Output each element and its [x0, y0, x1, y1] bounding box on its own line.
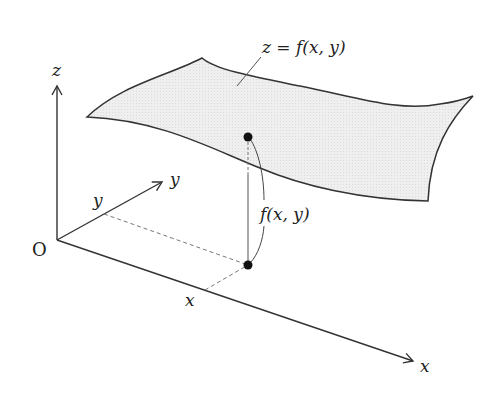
base-point: [244, 261, 253, 270]
height-label: f(x, y): [258, 204, 310, 224]
surface-point: [244, 133, 253, 142]
height-brace-lower: [250, 226, 264, 263]
z-axis-label: z: [51, 60, 62, 80]
surface-diagram: z y x O y x z = f(x, y) f(x, y): [0, 0, 499, 394]
x-axis: [57, 240, 413, 361]
y-coordinate-label: y: [92, 190, 103, 210]
y-axis-label: y: [169, 169, 180, 189]
y-axis: [57, 182, 162, 240]
x-axis-label: x: [420, 356, 430, 376]
x-projection-dashed: [205, 265, 248, 290]
origin-label: O: [32, 239, 47, 260]
surface: [87, 58, 473, 201]
surface-equation-label: z = f(x, y): [261, 37, 346, 57]
y-projection-dashed: [104, 214, 248, 265]
x-coordinate-label: x: [185, 290, 195, 310]
